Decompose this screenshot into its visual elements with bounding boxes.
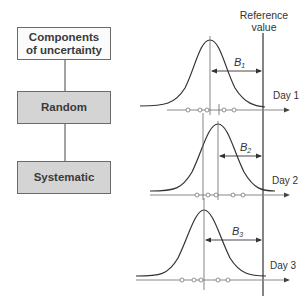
arrowhead-left-icon	[219, 154, 225, 159]
day2-bias-label: B2	[240, 141, 251, 154]
root-line2: of uncertainty	[26, 44, 102, 57]
day3-label: Day 3	[270, 260, 297, 271]
day1-panel: B1 Day 1	[140, 36, 300, 115]
reference-label-line1: Reference	[240, 9, 289, 21]
arrowhead-right-icon	[256, 154, 262, 159]
arrowhead-left-icon	[205, 238, 211, 243]
day2-label: Day 2	[272, 175, 299, 186]
day3-bias-label: B3	[232, 225, 243, 238]
day1-label: Day 1	[273, 90, 300, 101]
arrowhead-right-icon	[256, 69, 262, 74]
arrowhead-right-icon	[256, 238, 262, 243]
day3-distribution-curve	[136, 210, 266, 276]
day2-panel: B2 Day 2	[150, 113, 299, 200]
day1-distribution-curve	[140, 40, 265, 107]
day1-bias-label: B1	[234, 56, 245, 69]
systematic-box: Systematic	[17, 161, 111, 194]
day3-panel: B3 Day 3	[136, 198, 297, 290]
random-label: Random	[41, 101, 87, 114]
day2-axis-arrow-icon	[284, 193, 290, 198]
root-line1: Components	[29, 31, 99, 44]
day3-axis-arrow-icon	[284, 278, 290, 283]
day1-axis-arrow-icon	[284, 108, 290, 113]
systematic-label: Systematic	[34, 171, 95, 184]
random-box: Random	[17, 91, 111, 124]
components-of-uncertainty-box: Components of uncertainty	[17, 27, 111, 60]
arrowhead-left-icon	[211, 69, 217, 74]
reference-label-line2: value	[251, 21, 276, 33]
